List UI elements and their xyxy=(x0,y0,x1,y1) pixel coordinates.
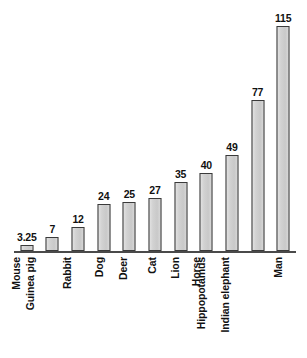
bar xyxy=(123,202,136,251)
bar xyxy=(200,173,213,251)
category-label: Man xyxy=(273,257,284,278)
category-label-slot: Rabbit xyxy=(65,255,91,355)
bar-value-label: 77 xyxy=(252,87,263,98)
bar xyxy=(251,100,264,251)
bar-group: 49 xyxy=(219,8,245,251)
category-label-slot: Indian elephant xyxy=(245,255,271,355)
bar-value-label: 27 xyxy=(149,185,160,196)
bar xyxy=(46,237,59,251)
bar-group: 115 xyxy=(270,8,296,251)
bar-value-label: 115 xyxy=(275,13,291,24)
category-label: Deer xyxy=(118,257,129,280)
bar-value-label: 49 xyxy=(226,142,237,153)
category-label: Dog xyxy=(94,257,105,277)
bar xyxy=(174,182,187,251)
bar xyxy=(148,198,161,251)
category-label-slot: Cat xyxy=(142,255,168,355)
bar xyxy=(97,204,110,251)
category-label-slot: Dog xyxy=(91,255,117,355)
bar-value-label: 7 xyxy=(50,224,56,235)
bar-chart-figure: 3.2571224252735404977115 MouseGuinea pig… xyxy=(0,0,307,358)
bar-group: 35 xyxy=(168,8,194,251)
bar-value-label: 3.25 xyxy=(17,232,37,243)
bar xyxy=(225,155,238,251)
bar xyxy=(72,227,85,251)
bar-value-label: 24 xyxy=(98,191,109,202)
category-label-slot: Deer xyxy=(117,255,143,355)
bar-group: 25 xyxy=(117,8,143,251)
category-label: Lion xyxy=(170,257,181,279)
x-axis-baseline xyxy=(14,251,296,253)
bar-group: 3.25 xyxy=(14,8,40,251)
bar-group: 77 xyxy=(245,8,271,251)
category-label: Guinea pig xyxy=(26,257,37,310)
bar-value-label: 35 xyxy=(175,169,186,180)
category-label: Hippopotamus xyxy=(196,257,207,329)
category-label: Cat xyxy=(147,257,158,274)
category-label: Indian elephant xyxy=(220,257,231,333)
bar-group: 40 xyxy=(193,8,219,251)
category-label: Mouse xyxy=(10,257,21,290)
bar-value-label: 25 xyxy=(124,189,135,200)
category-axis-labels: MouseGuinea pigRabbitDogDeerCatLionHorse… xyxy=(14,255,296,355)
bar-value-label: 12 xyxy=(72,214,83,225)
bar-group: 7 xyxy=(40,8,66,251)
category-label-slot: Man xyxy=(270,255,296,355)
bar-group: 24 xyxy=(91,8,117,251)
bar-value-label: 40 xyxy=(201,160,212,171)
category-label: Rabbit xyxy=(62,257,73,289)
bar-group: 27 xyxy=(142,8,168,251)
bar-group: 12 xyxy=(65,8,91,251)
bar xyxy=(277,26,290,251)
plot-area: 3.2571224252735404977115 xyxy=(14,8,296,251)
